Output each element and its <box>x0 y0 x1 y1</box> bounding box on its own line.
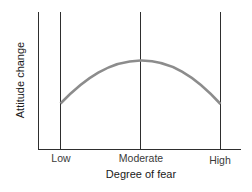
x-tick-moderate: Moderate <box>119 152 164 164</box>
x-tick-high: High <box>209 154 231 166</box>
y-axis-title: Attitude change <box>14 42 26 118</box>
x-tick-low: Low <box>51 152 71 164</box>
x-axis-title: Degree of fear <box>106 168 177 180</box>
inverted-u-chart: Low Moderate High Degree of fear Attitud… <box>0 0 252 192</box>
